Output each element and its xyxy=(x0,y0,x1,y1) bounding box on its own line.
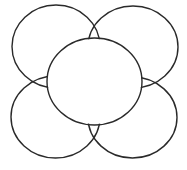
lobe-top-right xyxy=(88,6,178,88)
outer-lobes xyxy=(11,5,178,158)
lobe-bottom-right xyxy=(88,77,177,158)
diagram-canvas xyxy=(0,0,187,170)
flower-ellipses-diagram xyxy=(0,0,187,170)
center-ellipse xyxy=(47,38,142,125)
